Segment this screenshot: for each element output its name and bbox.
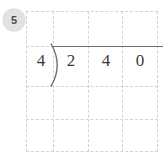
grid-line-vertical — [122, 11, 123, 152]
grid-line-horizontal — [26, 46, 158, 47]
worksheet-canvas: 5 4 2 4 0 — [0, 0, 165, 160]
step-number-label: 5 — [11, 15, 17, 26]
grid-line-vertical — [26, 11, 27, 152]
step-number-badge: 5 — [3, 9, 25, 31]
grid-line-horizontal — [26, 86, 158, 87]
graph-paper-grid — [26, 11, 158, 152]
grid-line-horizontal — [26, 11, 158, 12]
grid-line-vertical — [88, 11, 89, 152]
grid-line-vertical — [53, 11, 54, 152]
grid-line-horizontal — [26, 119, 158, 120]
grid-line-vertical — [157, 11, 158, 152]
grid-line-horizontal — [26, 151, 158, 152]
